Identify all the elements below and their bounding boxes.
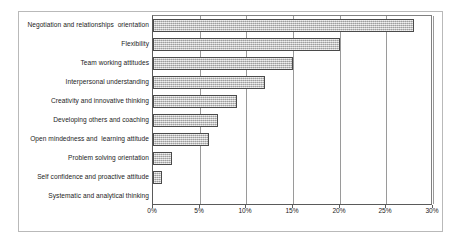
bar-row[interactable] (153, 149, 431, 168)
category-label: Self confidence and proactive attitude (37, 167, 149, 186)
bar-row[interactable] (153, 35, 431, 54)
bar[interactable] (153, 152, 172, 165)
bar[interactable] (153, 38, 340, 51)
bar-row[interactable] (153, 168, 431, 187)
category-label: Systematic and analytical thinking (48, 186, 149, 205)
bar-row[interactable] (153, 73, 431, 92)
plot-area (152, 15, 432, 205)
bar[interactable] (153, 57, 293, 70)
bar-row[interactable] (153, 187, 431, 206)
bar[interactable] (153, 95, 237, 108)
category-label: Open mindedness and learning attitude (30, 129, 149, 148)
bar[interactable] (153, 114, 218, 127)
x-tick-label: 20% (332, 207, 345, 214)
bar-series (153, 16, 431, 204)
bar-row[interactable] (153, 92, 431, 111)
bar-row[interactable] (153, 111, 431, 130)
x-tick-label: 0% (147, 207, 157, 214)
x-tick-label: 25% (378, 207, 391, 214)
bar-row[interactable] (153, 130, 431, 149)
x-tick-label: 30% (425, 207, 438, 214)
category-label: Developing others and coaching (53, 110, 149, 129)
bar[interactable] (153, 133, 209, 146)
bar[interactable] (153, 171, 162, 184)
gridline-30pct (433, 16, 434, 204)
category-label: Creativity and innovative thinking (51, 91, 149, 110)
category-label: Team working attitudes (80, 53, 149, 72)
category-axis-labels: Negotiation and relationships orientatio… (18, 15, 151, 205)
bar-row[interactable] (153, 54, 431, 73)
x-tick-label: 10% (238, 207, 251, 214)
bar[interactable] (153, 76, 265, 89)
category-label: Negotiation and relationships orientatio… (27, 15, 149, 34)
category-label: Interpersonal understanding (66, 72, 149, 91)
category-label: Problem solving orientation (68, 148, 149, 167)
category-label: Flexibility (121, 34, 149, 53)
bar[interactable] (153, 19, 414, 32)
chart-figure: Negotiation and relationships orientatio… (0, 0, 461, 250)
x-axis-labels: 0%5%10%15%20%25%30% (0, 207, 461, 223)
x-tick-label: 15% (285, 207, 298, 214)
bar-row[interactable] (153, 16, 431, 35)
x-tick-label: 5% (194, 207, 204, 214)
